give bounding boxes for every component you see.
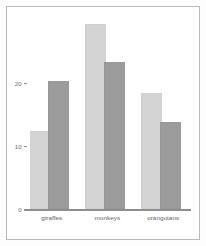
bar[interactable]: [141, 93, 162, 209]
chart-frame: 01020 giraffesmonkeysorangutans: [6, 6, 200, 240]
bar[interactable]: [30, 131, 51, 209]
y-tick-label: 0: [18, 206, 22, 213]
bar[interactable]: [160, 122, 181, 209]
category-label: orangutans: [147, 214, 179, 221]
x-axis-line: [24, 209, 191, 211]
x-axis-category-labels: giraffesmonkeysorangutans: [24, 212, 191, 226]
y-tick-label: 10: [15, 142, 22, 149]
bars-layer: [24, 7, 191, 209]
plot-area: 01020 giraffesmonkeysorangutans: [7, 7, 199, 239]
category-label: monkeys: [95, 214, 120, 221]
bar-group: [135, 7, 191, 209]
bar-group: [80, 7, 136, 209]
bar[interactable]: [48, 81, 69, 209]
bar-group: [24, 7, 80, 209]
category-label: giraffes: [41, 214, 62, 221]
y-tick-label: 20: [15, 79, 22, 86]
bar[interactable]: [104, 62, 125, 209]
bar[interactable]: [85, 24, 106, 209]
bar-chart-figure: 01020 giraffesmonkeysorangutans: [0, 0, 206, 246]
